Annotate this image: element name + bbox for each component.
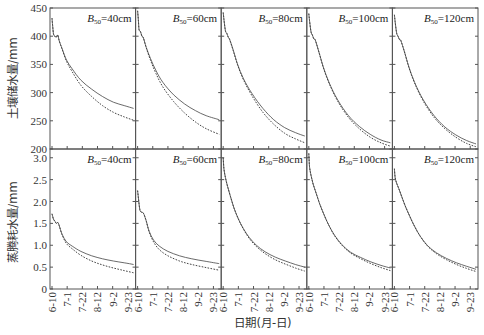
x-tick-label: 7-22 — [76, 292, 88, 312]
x-tick-label: 6-10 — [217, 292, 229, 313]
x-tick-label: 9-2 — [192, 292, 204, 307]
panel-transpiration-80cm: B50=80cm6-107-17-228-129-29-23 — [217, 149, 307, 312]
y-tick-label: 1.5 — [33, 217, 47, 229]
series-dashed-line — [309, 153, 391, 270]
x-tick-label: 9-2 — [363, 292, 375, 307]
series-dashed-line — [223, 158, 305, 271]
panel-soil-water-60cm: B50=60cm — [136, 8, 222, 149]
x-tick-label: 9-2 — [278, 292, 290, 307]
panel-soil-water-80cm: B50=80cm — [221, 8, 307, 149]
panel-transpiration-40cm: B50=40cm6-107-17-228-129-29-23 — [46, 149, 136, 312]
x-tick-label: 7-1 — [61, 292, 73, 307]
series-solid-line — [138, 191, 220, 264]
series-dashed-line — [223, 13, 305, 143]
x-tick-label: 9-23 — [464, 292, 476, 313]
panel-label: B50=60cm — [173, 153, 218, 167]
x-tick-label: 6-10 — [303, 292, 315, 313]
y-tick-label: 250 — [31, 115, 48, 127]
panel-label: B50=40cm — [87, 153, 132, 167]
y-tick-label: 400 — [31, 30, 48, 42]
x-tick-label: 8-12 — [263, 292, 275, 312]
panel-label: B50=80cm — [258, 12, 303, 26]
y-tick-label: 2.0 — [33, 196, 47, 208]
y-tick-label: 0.5 — [33, 261, 47, 273]
x-tick-label: 9-2 — [449, 292, 461, 307]
panel-label: B50=40cm — [87, 12, 132, 26]
series-solid-line — [52, 18, 134, 108]
panel-label: B50=80cm — [258, 153, 303, 167]
y-axis-title-soil-water: 土壤储水量/mm — [6, 37, 20, 118]
x-tick-label: 8-12 — [177, 292, 189, 312]
panel-soil-water-120cm: B50=120cm — [392, 8, 478, 149]
panel-soil-water-40cm: B50=40cm — [50, 8, 136, 149]
x-axis-title: 日期(月-日) — [234, 316, 291, 330]
y-tick-label: 300 — [31, 87, 48, 99]
x-tick-label: 6-10 — [46, 292, 58, 313]
x-tick-label: 8-12 — [348, 292, 360, 312]
series-dashed-line — [394, 169, 476, 272]
series-dashed-line — [138, 191, 220, 271]
panel-label: B50=120cm — [424, 12, 474, 26]
x-tick-label: 7-22 — [162, 292, 174, 312]
x-tick-label: 7-1 — [404, 292, 416, 307]
y-tick-label: 3.0 — [33, 152, 47, 164]
series-solid-line — [394, 15, 476, 144]
plot-area: 200250300350400450B50=40cmB50=60cmB50=80… — [31, 2, 479, 312]
x-tick-label: 7-22 — [419, 292, 431, 312]
panel-label: B50=60cm — [173, 12, 218, 26]
x-tick-label: 7-1 — [147, 292, 159, 307]
y-tick-label: 450 — [31, 2, 48, 14]
x-tick-label: 6-10 — [388, 292, 400, 313]
x-tick-label: 7-1 — [318, 292, 330, 307]
series-solid-line — [394, 169, 476, 270]
series-solid-line — [223, 158, 305, 267]
x-tick-label: 8-12 — [91, 292, 103, 312]
series-solid-line — [309, 153, 391, 268]
panel-transpiration-60cm: B50=60cm6-107-17-228-129-29-23 — [132, 149, 222, 312]
y-tick-label: 350 — [31, 58, 48, 70]
panel-label: B50=100cm — [339, 12, 389, 26]
x-tick-label: 9-2 — [107, 292, 119, 307]
x-tick-label: 8-12 — [434, 292, 446, 312]
panel-label: B50=120cm — [424, 153, 474, 167]
chart-figure: 200250300350400450B50=40cmB50=60cmB50=80… — [0, 0, 484, 335]
y-axis-title-transpiration: 蒸腾耗水量/mm — [6, 181, 20, 262]
x-tick-label: 6-10 — [132, 292, 144, 313]
panel-label: B50=100cm — [339, 153, 389, 167]
y-tick-label: 1.0 — [33, 239, 47, 251]
series-dashed-line — [52, 214, 134, 273]
panel-transpiration-100cm: B50=100cm6-107-17-228-129-29-23 — [303, 149, 393, 312]
y-tick-label: 2.5 — [33, 174, 47, 186]
series-dashed-line — [394, 15, 476, 147]
x-tick-label: 7-22 — [248, 292, 260, 312]
series-solid-line — [223, 13, 305, 137]
series-dashed-line — [309, 14, 391, 147]
x-tick-label: 7-22 — [333, 292, 345, 312]
panel-transpiration-120cm: B50=120cm6-107-17-228-129-29-23 — [388, 149, 478, 312]
series-solid-line — [138, 11, 220, 120]
x-tick-label: 7-1 — [232, 292, 244, 307]
panel-soil-water-100cm: B50=100cm — [307, 8, 393, 149]
series-solid-line — [309, 14, 391, 143]
